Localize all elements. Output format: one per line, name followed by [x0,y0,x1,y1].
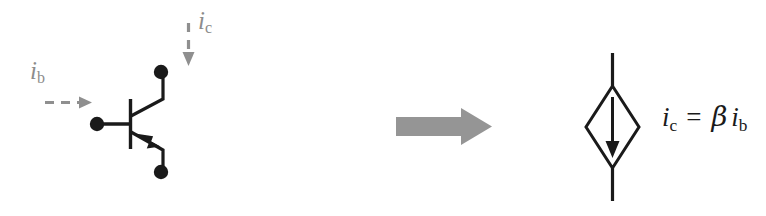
equation-lhs-symbol: i [662,102,670,132]
equation-rhs-subscript: b [739,116,748,135]
equation-rhs-symbol: i [731,102,739,132]
equation-lhs-subscript: c [670,116,678,135]
collector-current-symbol: i [198,7,205,34]
equation-operator: = [686,102,701,132]
equation-gain-symbol: β [711,100,727,132]
figure-bjt-equivalent-circuit: ib ic ic=βib [0,0,766,216]
base-current-symbol: i [30,57,37,84]
collector-current-label: ic [198,8,212,36]
source-direction-arrow-icon [606,97,620,158]
base-current-label: ib [30,58,45,86]
collector-current-subscript: c [205,19,212,36]
base-current-subscript: b [37,69,45,86]
right-circuit-drawing [0,0,766,216]
current-source-equation: ic=βib [662,103,748,134]
